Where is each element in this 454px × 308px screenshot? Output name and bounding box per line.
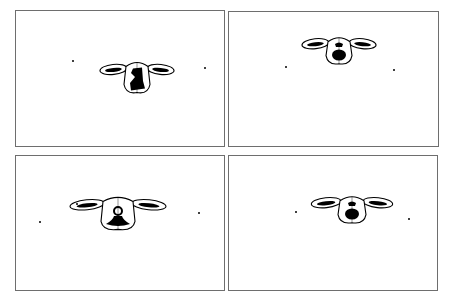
marker-dot [295,211,297,213]
marker-dot [72,60,74,62]
cow-face [301,37,376,64]
cow-face-drawing [229,156,439,292]
cow-face [70,197,167,229]
marker-dot [39,221,41,223]
left-ear [301,37,329,50]
left-ear [70,198,105,212]
marker-dot [204,67,206,69]
panel-bottom-right [228,155,438,291]
panel-bottom-left [15,155,225,291]
left-ear [311,196,342,209]
right-ear [349,37,377,50]
marker-dot [76,203,78,205]
left-ear [99,63,127,76]
right-ear [363,196,394,209]
cow-face [99,63,174,93]
marker-dot [285,66,287,68]
panel-top-left [15,10,225,147]
marker-dot [393,69,395,71]
marker-dot [198,212,200,214]
cow-face-drawing [16,11,226,148]
marker-dot [408,218,410,220]
right-ear [147,63,175,76]
cow-face-drawing [229,12,440,148]
right-ear [131,198,166,212]
cow-face-drawing [16,156,226,292]
cow-face [311,196,393,223]
panel-top-right [228,11,439,147]
